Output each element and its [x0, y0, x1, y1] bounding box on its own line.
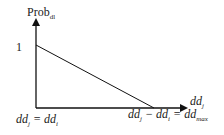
probability-line — [36, 45, 154, 108]
y-tick-1: 1 — [16, 41, 22, 53]
x-tick-left: ddj = ddi — [16, 113, 58, 128]
y-axis-label: Probdl — [27, 6, 55, 21]
x-tick-right: ddj − ddi = ddmax — [128, 108, 208, 123]
